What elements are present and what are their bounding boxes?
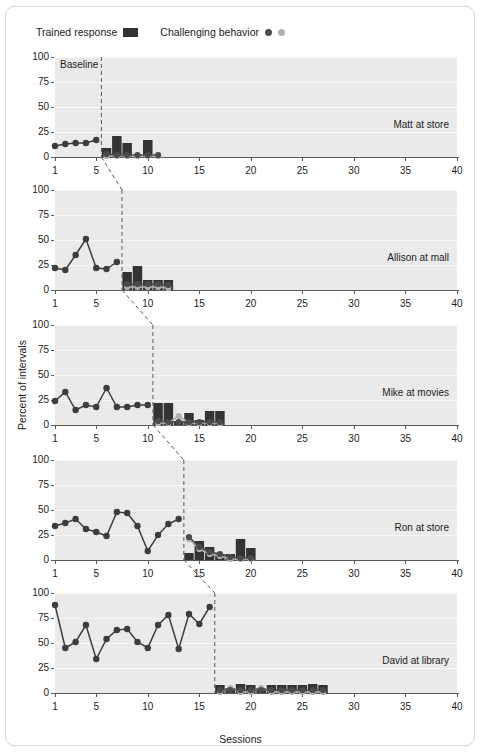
gridline <box>55 350 457 351</box>
x-tick-mark <box>96 158 97 161</box>
x-tick-mark <box>457 561 458 564</box>
y-tick-label: 75 <box>23 613 49 623</box>
x-tick-mark <box>55 426 56 429</box>
x-tick-label: 30 <box>348 434 359 444</box>
x-tick-label: 40 <box>451 434 462 444</box>
y-tick-label: 25 <box>23 395 49 405</box>
y-tick-label: 50 <box>23 102 49 112</box>
gridline <box>55 593 457 594</box>
x-tick-label: 20 <box>245 434 256 444</box>
gridline <box>55 400 457 401</box>
y-tick-mark <box>51 325 54 326</box>
x-tick-label: 1 <box>52 166 58 176</box>
baseline-annotation: Baseline <box>60 59 98 70</box>
x-tick-mark <box>302 426 303 429</box>
x-tick-label: 1 <box>52 569 58 579</box>
gridline <box>55 643 457 644</box>
y-tick-label: 50 <box>23 638 49 648</box>
y-tick-label: 100 <box>23 588 49 598</box>
x-tick-mark <box>251 426 252 429</box>
x-tick-label: 25 <box>297 299 308 309</box>
x-tick-mark <box>302 158 303 161</box>
y-tick-mark <box>51 460 54 461</box>
y-tick-label: 25 <box>23 663 49 673</box>
x-tick-mark <box>199 291 200 294</box>
x-axis-line <box>51 560 459 561</box>
legend-dot-light-icon <box>278 29 285 36</box>
legend-challenging-label: Challenging behavior <box>160 27 259 38</box>
x-tick-mark <box>457 694 458 697</box>
x-tick-label: 15 <box>194 702 205 712</box>
panel-label: Allison at mall <box>387 252 449 263</box>
y-tick-label: 100 <box>23 185 49 195</box>
x-tick-label: 20 <box>245 299 256 309</box>
gridline <box>55 485 457 486</box>
x-tick-label: 10 <box>142 702 153 712</box>
x-tick-label: 30 <box>348 569 359 579</box>
x-tick-mark <box>251 561 252 564</box>
x-tick-mark <box>148 426 149 429</box>
x-tick-label: 40 <box>451 299 462 309</box>
x-tick-label: 1 <box>52 299 58 309</box>
y-tick-label: 75 <box>23 77 49 87</box>
x-tick-label: 15 <box>194 299 205 309</box>
x-axis-line <box>51 157 459 158</box>
x-tick-label: 20 <box>245 702 256 712</box>
x-tick-label: 30 <box>348 299 359 309</box>
gridline <box>55 510 457 511</box>
panel-label: Mike at movies <box>382 387 449 398</box>
y-tick-mark <box>51 190 54 191</box>
x-axis-line <box>51 290 459 291</box>
y-tick-mark <box>51 82 54 83</box>
y-tick-label: 0 <box>23 555 49 565</box>
y-tick-mark <box>51 535 54 536</box>
x-tick-label: 1 <box>52 702 58 712</box>
y-tick-label: 0 <box>23 688 49 698</box>
y-tick-mark <box>51 400 54 401</box>
gridline <box>55 82 457 83</box>
x-tick-mark <box>405 694 406 697</box>
y-tick-label: 75 <box>23 210 49 220</box>
y-tick-label: 0 <box>23 152 49 162</box>
y-tick-mark <box>51 375 54 376</box>
x-tick-mark <box>457 158 458 161</box>
x-tick-label: 10 <box>142 434 153 444</box>
x-tick-label: 5 <box>93 702 99 712</box>
x-tick-label: 35 <box>400 434 411 444</box>
y-tick-mark <box>51 643 54 644</box>
x-tick-mark <box>148 291 149 294</box>
y-tick-label: 50 <box>23 235 49 245</box>
x-tick-mark <box>457 426 458 429</box>
gridline <box>55 240 457 241</box>
y-tick-label: 50 <box>23 370 49 380</box>
x-tick-label: 35 <box>400 166 411 176</box>
legend-trained-label: Trained response <box>36 27 117 38</box>
x-tick-mark <box>354 561 355 564</box>
panel-label: David at library <box>382 655 449 666</box>
gridline <box>55 132 457 133</box>
x-tick-mark <box>148 561 149 564</box>
gridline <box>55 265 457 266</box>
x-tick-mark <box>405 158 406 161</box>
gridline <box>55 215 457 216</box>
y-tick-label: 100 <box>23 52 49 62</box>
x-tick-mark <box>354 426 355 429</box>
x-axis-line <box>51 425 459 426</box>
x-tick-mark <box>405 291 406 294</box>
gridline <box>55 375 457 376</box>
y-tick-label: 100 <box>23 455 49 465</box>
x-tick-mark <box>199 158 200 161</box>
x-tick-label: 10 <box>142 299 153 309</box>
y-tick-mark <box>51 240 54 241</box>
x-tick-mark <box>96 291 97 294</box>
x-tick-mark <box>96 694 97 697</box>
panel-label: Matt at store <box>393 119 449 130</box>
y-tick-label: 0 <box>23 420 49 430</box>
y-tick-label: 25 <box>23 127 49 137</box>
x-tick-mark <box>251 291 252 294</box>
x-tick-label: 5 <box>93 166 99 176</box>
x-tick-label: 35 <box>400 569 411 579</box>
y-tick-label: 75 <box>23 480 49 490</box>
x-tick-label: 20 <box>245 569 256 579</box>
gridline <box>55 618 457 619</box>
